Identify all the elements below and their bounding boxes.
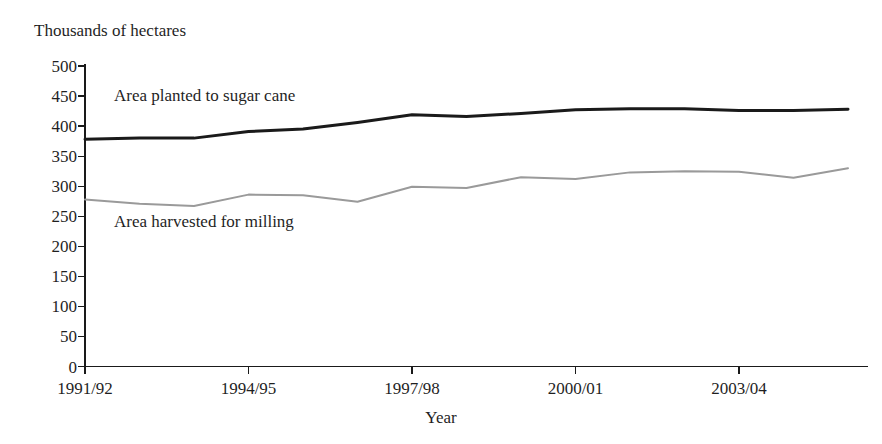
- line-chart: Thousands of hectares 050100150200250300…: [0, 0, 882, 444]
- series-annotation-area-harvested-for-milling: Area harvested for milling: [114, 212, 294, 231]
- y-axis-tick-label: 450: [52, 87, 78, 106]
- y-axis-tick-label: 150: [52, 267, 78, 286]
- x-axis-tick-label: 1997/98: [384, 379, 440, 398]
- x-axis-tick-label: 2000/01: [548, 379, 604, 398]
- y-axis-title: Thousands of hectares: [34, 21, 186, 40]
- y-axis-tick-label: 200: [52, 237, 78, 256]
- y-axis-tick-label: 50: [60, 327, 77, 346]
- y-axis-tick-label: 100: [52, 297, 78, 316]
- y-axis-tick-label: 250: [52, 207, 78, 226]
- x-axis-tick-label: 1994/95: [221, 379, 277, 398]
- x-axis-tick-label: 2003/04: [711, 379, 767, 398]
- chart-figure: Thousands of hectares 050100150200250300…: [0, 0, 882, 444]
- y-axis-tick-label: 400: [52, 117, 78, 136]
- x-axis-tick-label: 1991/92: [57, 379, 113, 398]
- x-axis-title: Year: [425, 408, 457, 427]
- y-axis-tick-label: 500: [52, 57, 78, 76]
- series-annotation-area-planted-to-sugar-cane: Area planted to sugar cane: [114, 86, 295, 105]
- y-axis-tick-label: 0: [69, 358, 78, 377]
- y-axis-tick-label: 350: [52, 147, 78, 166]
- y-axis-tick-label: 300: [52, 177, 78, 196]
